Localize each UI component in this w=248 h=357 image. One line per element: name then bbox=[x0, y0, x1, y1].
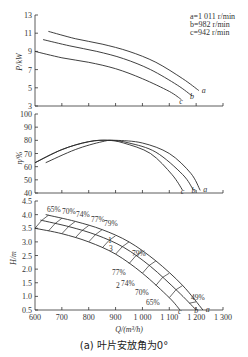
annotation-label: 70% bbox=[135, 288, 149, 297]
grid-segment bbox=[169, 290, 176, 298]
x-tick-label: 900 bbox=[110, 313, 122, 322]
curve-label-c: c bbox=[181, 187, 185, 196]
curve-label-a: a bbox=[202, 86, 206, 95]
grid-segment bbox=[42, 215, 49, 220]
grid-segment bbox=[176, 285, 183, 289]
grid-segment bbox=[156, 277, 163, 285]
y-tick-label: 9 bbox=[28, 47, 32, 56]
annotation-label: 79% bbox=[104, 219, 118, 228]
curve-label-b: b bbox=[191, 186, 195, 195]
eta-y-label: η/% bbox=[15, 151, 24, 164]
y-tick-label: 100 bbox=[20, 110, 32, 119]
annotation-label: 2 bbox=[116, 281, 120, 290]
efficiency-panel: 405060708090100 η/% abc bbox=[15, 110, 223, 198]
curve-c bbox=[35, 51, 181, 99]
annotation-label: 3 bbox=[109, 244, 113, 253]
grid-segment bbox=[163, 273, 170, 277]
y-tick-label: 4.0 bbox=[22, 211, 32, 220]
x-tick-label: 1 000 bbox=[133, 313, 151, 322]
annotation-label: 65% bbox=[47, 205, 61, 214]
curve-label-c: c bbox=[178, 307, 182, 316]
grid-segment bbox=[89, 235, 96, 242]
head-panel: 0.51.01.52.02.53.03.54.04.5 600700800900… bbox=[9, 197, 232, 334]
y-tick-label: 1.5 bbox=[22, 279, 32, 288]
p-y-label: P/kW bbox=[15, 52, 24, 72]
figure-caption: (a) 叶片安放角为0° bbox=[0, 337, 248, 352]
grid-segment bbox=[48, 223, 55, 230]
grid-segment bbox=[35, 220, 42, 228]
curve-label-a: a bbox=[206, 305, 210, 314]
x-tick-label: 700 bbox=[56, 313, 68, 322]
grid-segment bbox=[82, 226, 89, 231]
y-tick-label: 5 bbox=[28, 84, 32, 93]
grid-segment bbox=[55, 218, 62, 223]
annotation-label: 49% bbox=[191, 293, 205, 302]
y-tick-label: 1.0 bbox=[22, 292, 32, 301]
curve-label-b: b bbox=[194, 306, 198, 315]
x-tick-label: 1 300 bbox=[214, 313, 232, 322]
curve-b bbox=[40, 220, 196, 310]
grid-segment bbox=[75, 231, 82, 238]
curve-label-a: a bbox=[203, 185, 207, 194]
grid-segment bbox=[62, 227, 69, 234]
y-tick-label: 60 bbox=[24, 163, 32, 172]
annotation-label: 77% bbox=[112, 268, 126, 277]
x-tick-label: 1 100 bbox=[160, 313, 178, 322]
curve-c bbox=[35, 140, 183, 190]
curve-label-c: c bbox=[179, 97, 183, 106]
y-tick-label: 80 bbox=[24, 136, 32, 145]
annotation-label: 74% bbox=[76, 210, 90, 219]
annotation-label: 70% bbox=[62, 207, 76, 216]
grid-segment bbox=[189, 302, 196, 303]
grid-segment bbox=[142, 265, 149, 273]
y-tick-label: 2.0 bbox=[22, 265, 32, 274]
x-tick-label: 600 bbox=[29, 313, 41, 322]
x-axis-label: Q/(m³/h) bbox=[115, 325, 143, 334]
annotation-label: 79% bbox=[132, 249, 146, 258]
y-tick-label: 2.5 bbox=[22, 252, 32, 261]
grid-segment bbox=[69, 221, 76, 226]
curve-a bbox=[46, 215, 203, 310]
grid-segment bbox=[95, 230, 102, 235]
legend-c: c=942 r/min bbox=[190, 28, 229, 37]
y-tick-label: 90 bbox=[24, 123, 32, 132]
y-tick-label: 13 bbox=[24, 11, 32, 20]
pump-performance-chart: 35791113 P/kW abc a=1 011 r/min b=982 r/… bbox=[0, 0, 248, 340]
y-tick-label: 70 bbox=[24, 150, 32, 159]
curve-a bbox=[46, 140, 201, 190]
y-tick-label: 11 bbox=[24, 29, 32, 38]
curve-label-b: b bbox=[190, 92, 194, 101]
h-y-label: H/m bbox=[9, 251, 18, 266]
power-panel: 35791113 P/kW abc a=1 011 r/min b=982 r/… bbox=[15, 11, 235, 111]
annotation-label: 65% bbox=[146, 298, 160, 307]
curve-b bbox=[35, 140, 194, 190]
y-tick-label: 3.5 bbox=[22, 224, 32, 233]
annotation-label: 74% bbox=[121, 279, 135, 288]
x-tick-label: 800 bbox=[83, 313, 95, 322]
curve-a bbox=[48, 31, 198, 90]
y-tick-label: 4.5 bbox=[22, 197, 32, 206]
y-tick-label: 7 bbox=[28, 66, 32, 75]
y-tick-label: 50 bbox=[24, 176, 32, 185]
y-tick-label: 3.0 bbox=[22, 238, 32, 247]
grid-segment bbox=[116, 247, 123, 254]
grid-segment bbox=[122, 242, 129, 247]
grid-segment bbox=[149, 261, 156, 265]
annotation-label: 77% bbox=[91, 215, 105, 224]
